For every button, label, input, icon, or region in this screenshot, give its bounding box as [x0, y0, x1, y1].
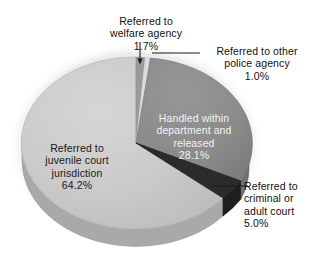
slice-label-text: Referred to criminal or adult court	[244, 180, 298, 216]
slice-label-referred-to-welfare-agency: Referred to welfare agency 1.7%	[92, 3, 200, 64]
slice-label-percent: 1.7%	[92, 40, 200, 52]
slice-label-referred-to-other-police-agency: Referred to other police agency 1.0%	[196, 33, 318, 94]
slice-label-handled-within-department-and-released: Handled within department and released 2…	[142, 100, 246, 173]
slice-label-text: Referred to juvenile court jurisdiction	[45, 142, 108, 178]
pie-chart: Referred to welfare agency 1.7% Referred…	[0, 0, 320, 262]
slice-label-percent: 1.0%	[196, 70, 318, 82]
slice-label-percent: 5.0%	[244, 217, 320, 229]
slice-label-percent: 64.2%	[22, 179, 132, 191]
slice-label-referred-to-juvenile-court-jurisdiction: Referred to juvenile court jurisdiction …	[22, 130, 132, 203]
slice-label-text: Handled within department and released	[156, 112, 231, 148]
slice-label-text: Referred to welfare agency	[110, 15, 182, 39]
slice-label-percent: 28.1%	[142, 149, 246, 161]
slice-label-referred-to-criminal-or-adult-court: Referred to criminal or adult court 5.0%	[244, 168, 320, 241]
slice-label-text: Referred to other police agency	[216, 45, 297, 69]
